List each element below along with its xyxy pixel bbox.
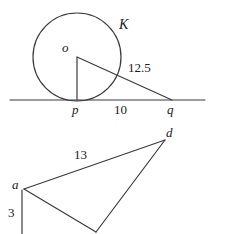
label-length-12-5: 12.5 [128,61,151,74]
circle-figure-group [10,13,205,101]
geometry-figure-root: K o p q 12.5 10 a d 13 3 [0,0,225,234]
triangle-side-d-bottom [96,140,165,232]
triangle-side-ad [24,140,165,189]
label-circle-k: K [119,18,128,32]
label-point-o: o [62,41,69,54]
label-length-3: 3 [8,206,15,219]
label-point-p: p [72,103,79,116]
label-length-13: 13 [74,148,87,161]
label-point-a: a [12,178,19,191]
hypotenuse-segment-oq [77,57,172,100]
label-point-d: d [166,126,173,139]
geometry-diagram-canvas [0,0,225,234]
triangle-figure-group [22,140,165,234]
triangle-side-a-bottom [24,189,96,232]
label-point-q: q [167,103,174,116]
label-length-10: 10 [114,103,127,116]
